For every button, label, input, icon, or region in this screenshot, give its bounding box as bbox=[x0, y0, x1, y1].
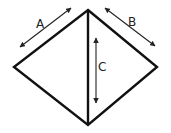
label-b: B bbox=[128, 15, 136, 29]
label-a: A bbox=[36, 17, 45, 31]
label-c: C bbox=[98, 60, 106, 74]
kite-diagram: A B C bbox=[0, 0, 171, 133]
